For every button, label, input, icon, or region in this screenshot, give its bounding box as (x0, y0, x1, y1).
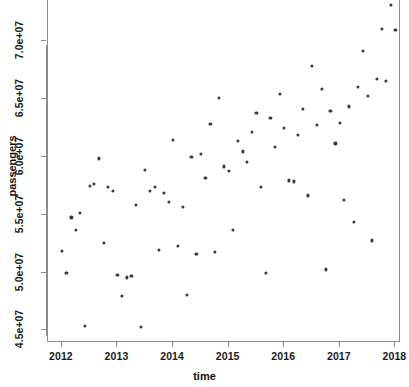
data-point (74, 228, 77, 231)
data-point (264, 271, 267, 274)
y-tick-mark (41, 156, 46, 157)
data-point (334, 142, 337, 145)
data-point (301, 107, 304, 110)
x-tick-mark (339, 342, 340, 347)
data-point (227, 169, 230, 172)
data-point (162, 191, 165, 194)
data-point (394, 28, 397, 31)
x-tick-label: 2014 (142, 350, 202, 362)
data-point (158, 248, 161, 251)
data-point (287, 179, 290, 182)
data-point (88, 185, 91, 188)
data-point (130, 275, 133, 278)
data-point (352, 220, 355, 223)
data-point (292, 180, 295, 183)
data-point (120, 294, 123, 297)
data-point (148, 189, 151, 192)
y-axis-line (46, 45, 47, 336)
data-point (237, 139, 240, 142)
y-tick-mark (41, 98, 46, 99)
data-point (320, 87, 323, 90)
data-point (241, 150, 244, 153)
y-tick-label: 6.5e+07 (0, 92, 38, 104)
data-point (250, 130, 253, 133)
x-axis-label: time (0, 370, 409, 382)
data-point (134, 203, 137, 206)
y-axis-label: passengers (6, 116, 18, 216)
data-point (181, 205, 184, 208)
data-point (357, 85, 360, 88)
data-point (102, 241, 105, 244)
data-point (176, 245, 179, 248)
x-tick-mark (228, 342, 229, 347)
data-point (106, 186, 109, 189)
data-point (283, 127, 286, 130)
data-point (111, 189, 114, 192)
data-point (167, 201, 170, 204)
x-tick-mark (61, 342, 62, 347)
y-tick-mark (41, 214, 46, 215)
data-point (60, 249, 63, 252)
x-tick-mark (172, 342, 173, 347)
data-point (232, 228, 235, 231)
x-tick-label: 2017 (309, 350, 369, 362)
data-point (144, 168, 147, 171)
data-point (255, 112, 258, 115)
data-point (384, 79, 387, 82)
data-point (223, 165, 226, 168)
data-point (190, 156, 193, 159)
data-point (376, 77, 379, 80)
data-point (343, 198, 346, 201)
y-tick-mark (41, 272, 46, 273)
data-point (245, 160, 248, 163)
data-point (65, 271, 68, 274)
data-point (259, 186, 262, 189)
y-tick-mark (41, 40, 46, 41)
y-tick-label: 7.0e+07 (0, 34, 38, 46)
data-point (84, 324, 87, 327)
x-tick-mark (283, 342, 284, 347)
scatter-plot-figure: 2012201320142015201620172018 4.5e+075.0e… (0, 0, 409, 387)
data-point (213, 250, 216, 253)
data-point (389, 3, 392, 6)
data-point (306, 194, 309, 197)
data-point (329, 109, 332, 112)
data-point (278, 92, 281, 95)
data-point (366, 94, 369, 97)
data-point (116, 274, 119, 277)
x-tick-label: 2016 (253, 350, 313, 362)
data-point (93, 182, 96, 185)
data-point (70, 216, 73, 219)
plot-region (47, 0, 400, 341)
data-point (310, 64, 313, 67)
data-point (79, 211, 82, 214)
y-tick-mark (41, 329, 46, 330)
data-point (171, 138, 174, 141)
x-tick-label: 2018 (364, 350, 409, 362)
data-point (139, 326, 142, 329)
data-point (204, 176, 207, 179)
x-tick-mark (394, 342, 395, 347)
data-point (380, 27, 383, 30)
x-tick-label: 2015 (198, 350, 258, 362)
data-point (153, 186, 156, 189)
x-axis-line (47, 341, 400, 342)
y-tick-label: 5.0e+07 (0, 266, 38, 278)
data-point (273, 145, 276, 148)
x-tick-mark (116, 342, 117, 347)
data-point (218, 97, 221, 100)
data-point (185, 293, 188, 296)
data-point (269, 116, 272, 119)
data-point (125, 276, 128, 279)
data-point (370, 239, 373, 242)
data-point (195, 253, 198, 256)
y-tick-label: 4.5e+07 (0, 323, 38, 335)
data-point (209, 122, 212, 125)
data-point (199, 152, 202, 155)
data-point (338, 121, 341, 124)
x-tick-label: 2013 (86, 350, 146, 362)
data-points-layer (48, 0, 399, 341)
data-point (315, 123, 318, 126)
data-point (297, 134, 300, 137)
data-point (362, 49, 365, 52)
